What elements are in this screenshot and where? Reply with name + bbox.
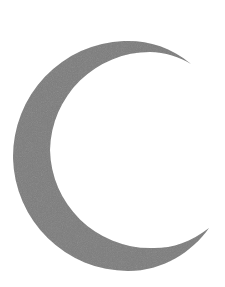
- crescent-moon-canvas: Crescent moon: [0, 0, 225, 287]
- crescent-shape: [13, 41, 209, 271]
- crescent-moon-icon: [0, 0, 225, 287]
